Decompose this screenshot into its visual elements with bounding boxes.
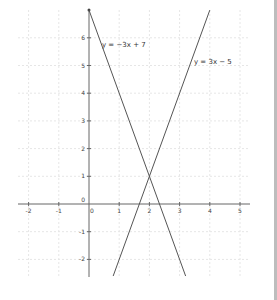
svg-text:2: 2 [81,145,85,152]
svg-text:-2: -2 [79,255,85,262]
panel-border [274,0,277,300]
svg-text:5: 5 [238,207,242,214]
equation-label-2: y = 3x − 5 [194,58,232,66]
tick-labels: -2-10123456543210-1-2 [26,34,242,263]
svg-text:0: 0 [90,207,94,214]
svg-text:4: 4 [81,89,85,96]
grid-lines [18,10,250,277]
svg-text:6: 6 [81,34,85,41]
svg-text:-2: -2 [26,207,32,214]
svg-text:-1: -1 [79,228,85,235]
svg-text:0: 0 [81,196,85,203]
svg-text:4: 4 [208,207,212,214]
svg-text:-1: -1 [56,207,62,214]
svg-text:5: 5 [81,62,85,69]
function-line-2 [113,10,210,276]
svg-text:3: 3 [81,117,85,124]
svg-text:1: 1 [81,172,85,179]
equation-label-1: y = −3x + 7 [102,41,146,49]
svg-text:3: 3 [178,207,182,214]
graph-canvas: -2-10123456543210-1-2 y = −3x + 7 y = 3x… [0,0,277,300]
svg-text:2: 2 [147,207,151,214]
svg-text:1: 1 [117,207,121,214]
function-line-1 [89,10,186,276]
